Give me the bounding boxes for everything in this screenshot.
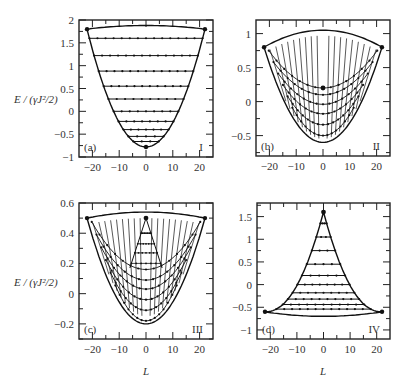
panel-tag: (d) bbox=[262, 323, 275, 336]
x-tick-label: −20 bbox=[84, 161, 102, 173]
y-axis-title: E / (γJ²/2) bbox=[13, 93, 58, 106]
x-axis-title: L bbox=[319, 365, 326, 377]
x-tick-label: −20 bbox=[261, 160, 279, 172]
x-tick-label: 0 bbox=[143, 343, 149, 355]
y-tick-label: 0.4 bbox=[60, 227, 74, 239]
y-tick-label: 0.5 bbox=[238, 256, 252, 268]
y-tick-label: −0.5 bbox=[54, 128, 74, 140]
x-tick-label: −10 bbox=[288, 343, 306, 355]
x-tick-label: 0 bbox=[320, 160, 326, 172]
x-tick-label: 0 bbox=[143, 161, 149, 173]
x-tick-label: 20 bbox=[371, 343, 383, 355]
x-axis-title: L bbox=[142, 365, 149, 377]
x-tick-label: 10 bbox=[167, 343, 179, 355]
x-tick-label: −10 bbox=[288, 160, 306, 172]
x-tick-label: −10 bbox=[111, 161, 129, 173]
y-tick-label: 0 bbox=[69, 105, 75, 117]
panel-tag: (b) bbox=[261, 140, 274, 153]
panel-a: −20−100102021.510.50−0.5−1(a)I bbox=[54, 14, 213, 173]
y-tick-label: 2 bbox=[69, 14, 75, 26]
y-tick-label: 0.2 bbox=[60, 257, 74, 269]
y-tick-label: −0.5 bbox=[231, 130, 251, 142]
y-tick-label: 0 bbox=[246, 96, 252, 108]
y-tick-label: 0 bbox=[247, 279, 253, 291]
panel-c: −20−10010200.60.40.20−0.2(c)III bbox=[54, 197, 213, 355]
y-tick-label: −0.5 bbox=[232, 301, 252, 313]
x-tick-label: 20 bbox=[194, 343, 206, 355]
panel-b: −20−100102010.50−0.5(b)II bbox=[231, 20, 390, 172]
x-tick-label: 10 bbox=[345, 343, 357, 355]
y-tick-label: 0.5 bbox=[237, 62, 251, 74]
x-tick-label: 0 bbox=[321, 343, 327, 355]
panel-d: −20−10010201.510.50−0.5−1(d)IV bbox=[232, 203, 390, 355]
x-tick-label: 10 bbox=[344, 160, 356, 172]
y-tick-label: −0.2 bbox=[54, 318, 74, 330]
y-tick-label: 1 bbox=[69, 60, 75, 72]
x-tick-label: 10 bbox=[167, 161, 179, 173]
panel-tag: (a) bbox=[84, 141, 97, 154]
y-tick-label: 0.6 bbox=[60, 197, 74, 209]
x-tick-label: −20 bbox=[84, 343, 102, 355]
region-label: IV bbox=[368, 323, 380, 335]
y-tick-label: 1 bbox=[246, 28, 252, 40]
y-tick-label: 0.5 bbox=[60, 83, 74, 95]
y-tick-label: 1.5 bbox=[60, 37, 74, 49]
y-tick-label: −1 bbox=[62, 151, 74, 163]
x-tick-label: −10 bbox=[111, 343, 129, 355]
y-tick-label: 0 bbox=[69, 288, 75, 300]
panel-tag: (c) bbox=[84, 323, 97, 336]
y-axis-title: E / (γJ²/2) bbox=[13, 276, 58, 289]
x-tick-label: −20 bbox=[262, 343, 280, 355]
y-tick-label: 1.5 bbox=[238, 211, 252, 223]
y-tick-label: 1 bbox=[247, 233, 253, 245]
figure-canvas: −20−100102021.510.50−0.5−1(a)I−20−100102… bbox=[0, 0, 407, 389]
region-label: III bbox=[192, 323, 203, 335]
x-tick-label: 20 bbox=[194, 161, 206, 173]
y-tick-label: −1 bbox=[240, 324, 252, 336]
region-label: II bbox=[373, 140, 381, 152]
region-label: I bbox=[199, 141, 203, 153]
x-tick-label: 20 bbox=[371, 160, 383, 172]
